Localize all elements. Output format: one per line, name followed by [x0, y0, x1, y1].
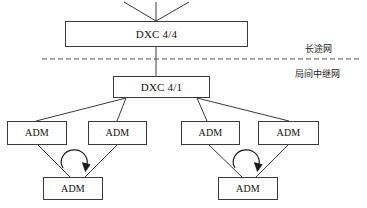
node-adm-right-1[interactable]: ADM — [181, 121, 240, 145]
uplink-left — [124, 2, 156, 21]
node-adm-left-2-label: ADM — [106, 128, 130, 138]
zone-label-upper: 长途网 — [305, 45, 332, 54]
node-adm-right-2-label: ADM — [277, 128, 301, 138]
node-adm-left-3-label: ADM — [61, 184, 85, 194]
node-adm-right-1-label: ADM — [199, 128, 223, 138]
link-dxc41-adm-left-2 — [117, 98, 126, 121]
node-adm-left-1-label: ADM — [25, 128, 49, 138]
node-dxc-4-1-label: DXC 4/1 — [141, 82, 182, 93]
right-ring-arrowhead — [254, 163, 262, 172]
node-adm-right-2[interactable]: ADM — [258, 121, 319, 145]
uplink-right — [156, 2, 189, 21]
node-dxc-4-4-label: DXC 4/4 — [136, 29, 177, 40]
node-adm-left-2[interactable]: ADM — [88, 121, 147, 145]
link-dxc41-adm-left-1 — [36, 98, 126, 121]
node-adm-left-3[interactable]: ADM — [43, 177, 103, 200]
node-adm-right-3-label: ADM — [236, 184, 260, 194]
node-dxc-4-4[interactable]: DXC 4/4 — [65, 21, 248, 47]
node-adm-left-1[interactable]: ADM — [7, 121, 67, 145]
link-adm-right-1-to-right-3 — [209, 145, 242, 177]
link-adm-left-1-to-left-3 — [38, 145, 70, 177]
node-adm-right-3[interactable]: ADM — [218, 177, 278, 200]
diagram-canvas: DXC 4/4 DXC 4/1 ADM ADM ADM ADM ADM ADM … — [0, 0, 367, 208]
link-dxc41-adm-right-2 — [197, 98, 289, 121]
link-dxc41-adm-right-1 — [197, 98, 207, 121]
left-ring-arrowhead — [82, 163, 90, 172]
link-adm-right-2-to-right-3 — [256, 145, 288, 177]
zone-label-lower: 局间中继网 — [295, 70, 340, 79]
link-adm-left-2-to-left-3 — [85, 145, 117, 177]
node-dxc-4-1[interactable]: DXC 4/1 — [113, 76, 210, 98]
